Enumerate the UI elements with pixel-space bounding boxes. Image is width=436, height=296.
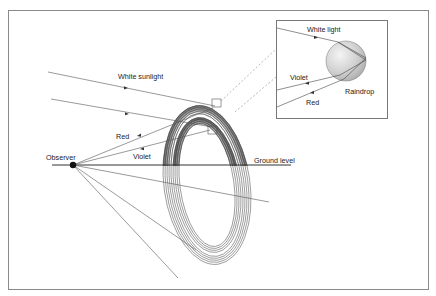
- label-ground-level: Ground level: [254, 156, 295, 165]
- inset-label-violet: Violet: [290, 73, 308, 82]
- observer-dot: [70, 162, 76, 168]
- inset-panel: [277, 21, 388, 119]
- label-white-sunlight: White sunlight: [118, 72, 163, 81]
- label-violet: Violet: [133, 152, 151, 161]
- inset-label-raindrop: Raindrop: [345, 87, 374, 96]
- rainbow-diagram: White sunlight Red Violet Observer Groun…: [0, 0, 436, 296]
- label-observer: Observer: [46, 153, 76, 162]
- label-red: Red: [116, 132, 129, 141]
- inset-label-red: Red: [306, 98, 319, 107]
- inset-label-white-light: White light: [307, 25, 341, 34]
